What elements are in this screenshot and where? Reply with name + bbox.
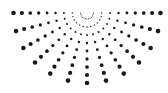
sunburst-dot	[37, 11, 40, 14]
sunburst-dot	[120, 31, 123, 34]
sunburst-dot	[117, 12, 119, 14]
sunburst-dot	[47, 21, 50, 24]
sunburst-dot	[83, 18, 84, 19]
sunburst-dot	[97, 22, 98, 23]
sunburst-dot	[70, 63, 74, 67]
sunburst-dot	[90, 26, 91, 27]
sunburst-dot	[142, 11, 146, 15]
sunburst-dot	[92, 33, 94, 35]
sunburst-dot	[59, 27, 61, 29]
sunburst-dot	[39, 23, 42, 26]
sunburst-dot	[150, 11, 154, 15]
sunburst-dot	[110, 51, 113, 54]
sunburst-dot	[127, 34, 130, 37]
sunburst-dot	[106, 23, 108, 25]
sunburst-dot	[148, 27, 152, 31]
sunburst-dot	[94, 41, 96, 43]
sunburst-dot	[102, 38, 104, 40]
sunburst-dot	[79, 24, 80, 25]
sunburst-dot	[54, 12, 56, 14]
sunburst-dot	[102, 28, 104, 30]
sunburst-dot	[102, 71, 106, 75]
sunburst-dot	[158, 11, 163, 16]
sunburst-dot	[29, 42, 33, 46]
sunburst-dot	[75, 31, 77, 33]
sunburst-dot	[80, 33, 82, 35]
sunburst-dot	[131, 55, 135, 59]
sunburst-dot	[98, 31, 100, 33]
sunburst-dot	[57, 58, 61, 62]
sunburst-dot	[100, 16, 101, 17]
sunburst-dot	[33, 60, 38, 65]
sunburst-dot	[141, 42, 145, 46]
sunburst-dot	[11, 11, 16, 16]
sunburst-dot	[125, 49, 129, 53]
sunburst-dot	[109, 12, 111, 14]
sunburst-dot	[22, 27, 26, 31]
sunburst-dot	[82, 26, 83, 27]
sunburst-dot	[90, 18, 91, 19]
sunburst-dot	[20, 11, 24, 15]
sunburst-dot	[91, 17, 92, 18]
sunburst-dot	[101, 12, 102, 13]
sunburst-dot	[108, 33, 110, 35]
sunburst-dot	[45, 49, 49, 53]
sunburst-dot	[66, 78, 71, 83]
sunburst-dot	[88, 18, 89, 19]
sunburst-dot	[106, 45, 109, 48]
sunburst-dot	[61, 51, 64, 54]
sunburst-dot	[134, 38, 138, 42]
sunburst-logo-icon	[0, 0, 168, 93]
sunburst-dot	[80, 14, 81, 15]
sunburst-dot	[64, 18, 66, 20]
sunburst-dot	[63, 12, 65, 14]
sunburst-dot	[98, 56, 101, 59]
sunburst-dot	[94, 24, 95, 25]
sunburst-dot	[100, 63, 104, 67]
sunburst-dot	[30, 25, 34, 29]
sunburst-dot	[51, 31, 54, 34]
sunburst-dot	[68, 71, 72, 75]
sunburst-dot	[75, 48, 78, 51]
sunburst-dot	[87, 19, 88, 20]
sunburst-dot	[124, 21, 127, 24]
sunburst-dot	[104, 78, 109, 83]
sunburst-dot	[120, 44, 123, 47]
sunburst-dot	[72, 12, 73, 13]
sunburst-dot	[114, 58, 118, 62]
sunburst-dot	[86, 26, 87, 27]
sunburst-dot	[96, 48, 99, 51]
sunburst-dot	[93, 13, 94, 14]
sunburst-dot	[85, 73, 89, 77]
sunburst-dot	[156, 29, 161, 34]
sunburst-dot	[116, 20, 118, 22]
sunburst-dot	[28, 11, 32, 15]
sunburst-dot	[55, 20, 57, 22]
sunburst-dot	[44, 34, 47, 37]
sunburst-dot	[140, 25, 144, 29]
sunburst-dot	[85, 18, 86, 19]
sunburst-dot	[52, 65, 56, 69]
sunburst-dot	[86, 50, 89, 53]
sunburst-dot	[81, 16, 82, 17]
sunburst-dot	[76, 22, 77, 23]
sunburst-dot	[74, 19, 75, 20]
sunburst-dot	[57, 38, 60, 41]
sunburst-dot	[108, 18, 110, 20]
sunburst-dot	[73, 56, 76, 59]
sunburst-dot	[99, 19, 100, 20]
sunburst-dot	[14, 29, 19, 34]
sunburst-dot	[21, 46, 26, 51]
sunburst-dot	[78, 41, 80, 43]
sunburst-dot	[134, 11, 137, 14]
sunburst-dot	[86, 34, 88, 36]
sunburst-dot	[64, 33, 66, 35]
sunburst-dot	[82, 17, 83, 18]
sunburst-dot	[93, 14, 94, 15]
sunburst-dot	[48, 71, 53, 76]
sunburst-dot	[80, 13, 81, 14]
sunburst-dot	[121, 71, 126, 76]
sunburst-dot	[92, 16, 93, 17]
sunburst-dot	[51, 44, 54, 47]
sunburst-dot	[39, 55, 43, 59]
